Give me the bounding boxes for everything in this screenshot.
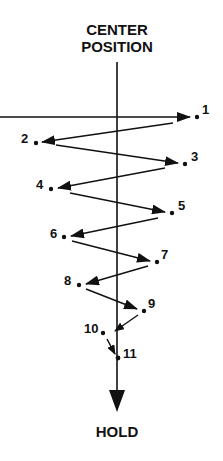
hold-label: HOLD: [96, 423, 139, 440]
point-label-11: 11: [123, 346, 137, 361]
point-label-4: 4: [36, 177, 44, 192]
center-position-title-line1: CENTER: [86, 21, 148, 38]
point-7: [155, 260, 159, 264]
point-label-7: 7: [161, 247, 168, 262]
zigzag-sequence-diagram: CENTER POSITION 1 2 3 4 5 6 7 8 9 10 11 …: [0, 0, 223, 461]
arrow-10-to-11: [107, 339, 115, 354]
point-label-8: 8: [64, 273, 71, 288]
point-10: [101, 331, 105, 335]
point-label-1: 1: [202, 102, 209, 117]
point-label-10: 10: [84, 321, 98, 336]
point-label-5: 5: [178, 198, 185, 213]
arrow-1-to-2: [42, 123, 173, 142]
point-2: [34, 141, 38, 145]
point-6: [62, 235, 66, 239]
arrow-5-to-6: [71, 218, 158, 236]
point-11: [116, 356, 121, 361]
arrow-8-to-9: [86, 289, 137, 309]
point-3: [183, 162, 187, 166]
center-position-title-line2: POSITION: [81, 38, 153, 55]
arrow-6-to-7: [72, 241, 150, 261]
hold-arrowhead-icon: [109, 390, 125, 412]
point-1: [195, 115, 199, 119]
point-label-6: 6: [50, 226, 57, 241]
point-8: [77, 283, 81, 287]
point-4: [49, 187, 53, 191]
point-5: [170, 211, 174, 215]
point-label-2: 2: [21, 131, 28, 146]
arrow-9-to-10: [115, 315, 138, 331]
point-label-9: 9: [148, 296, 155, 311]
arrow-3-to-4: [58, 168, 165, 188]
point-label-3: 3: [191, 149, 198, 164]
point-9: [142, 309, 146, 313]
